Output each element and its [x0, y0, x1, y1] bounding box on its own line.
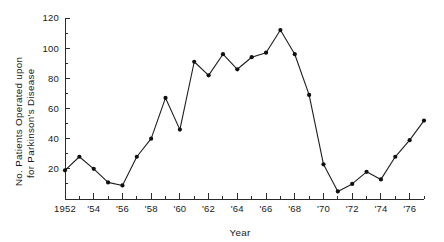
data-point-marker — [321, 162, 325, 166]
data-point-marker — [178, 128, 182, 132]
data-point-marker — [149, 137, 153, 141]
x-tick-label: '60 — [173, 203, 186, 214]
data-point-marker — [92, 167, 96, 171]
data-point-marker — [120, 183, 124, 187]
x-tick-label: '56 — [116, 203, 129, 214]
data-point-marker — [235, 67, 239, 71]
x-tick-label: '64 — [231, 203, 244, 214]
y-axis-title-line1: No. Patients Operated upon — [13, 57, 24, 186]
data-point-marker — [336, 189, 340, 193]
line-chart: 20406080100120 1952'54'56'58'60'62'64'66… — [0, 0, 444, 242]
x-tick-label: '68 — [288, 203, 301, 214]
data-point-marker — [350, 182, 354, 186]
data-point-marker — [106, 180, 110, 184]
data-point-marker — [264, 51, 268, 55]
data-point-marker — [207, 73, 211, 77]
data-point-marker — [278, 28, 282, 32]
x-axis-title: Year — [230, 227, 251, 238]
data-point-marker — [408, 138, 412, 142]
data-point-marker — [135, 155, 139, 159]
x-tick-label: '54 — [87, 203, 100, 214]
y-tick-label: 60 — [48, 103, 59, 114]
x-tick-label: '74 — [374, 203, 387, 214]
data-point-marker — [250, 55, 254, 59]
data-point-marker — [293, 52, 297, 56]
data-point-marker — [364, 170, 368, 174]
y-axis-title-line2: for Parkinson's Disease — [25, 68, 36, 178]
plot-area: 20406080100120 1952'54'56'58'60'62'64'66… — [43, 12, 427, 214]
y-tick-label: 40 — [48, 133, 59, 144]
data-point-marker — [422, 118, 426, 122]
data-point-marker — [379, 177, 383, 181]
data-series-line — [65, 30, 424, 191]
data-point-marker — [393, 155, 397, 159]
data-point-marker — [192, 60, 196, 64]
y-tick-label: 120 — [43, 12, 59, 23]
x-tick-label: '70 — [317, 203, 330, 214]
x-tick-label: '76 — [403, 203, 416, 214]
x-tick-label: '58 — [145, 203, 158, 214]
data-series-markers — [63, 28, 426, 194]
data-point-marker — [221, 52, 225, 56]
y-tick-label: 80 — [48, 73, 59, 84]
data-point-marker — [307, 93, 311, 97]
x-tick-label: '72 — [346, 203, 359, 214]
y-axis-tick-labels: 20406080100120 — [43, 12, 59, 174]
x-tick-label: '62 — [202, 203, 215, 214]
figure-container: 20406080100120 1952'54'56'58'60'62'64'66… — [0, 0, 444, 242]
x-axis-tick-labels: 1952'54'56'58'60'62'64'66'68'70'72'74'76 — [54, 203, 416, 214]
y-tick-label: 20 — [48, 163, 59, 174]
y-axis-title: No. Patients Operated upon for Parkinson… — [13, 57, 36, 186]
x-axis-major-ticks — [65, 193, 410, 199]
x-tick-label: 1952 — [54, 203, 76, 214]
x-axis-minor-ticks — [79, 196, 424, 200]
data-point-marker — [163, 96, 167, 100]
data-point-marker — [77, 155, 81, 159]
x-tick-label: '66 — [260, 203, 273, 214]
y-tick-label: 100 — [43, 43, 59, 54]
data-point-marker — [63, 168, 67, 172]
